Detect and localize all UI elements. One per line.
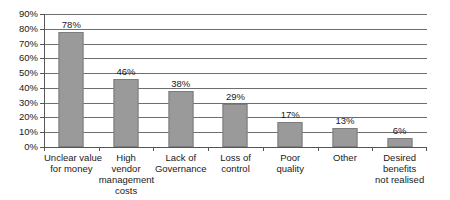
y-tick-mark [40,147,45,148]
bar-slot: 29% [208,14,263,147]
bar-slot: 38% [153,14,208,147]
y-tick-label: 40% [19,83,38,93]
x-category-label: Lack ofGovernance [153,152,208,174]
y-tick-mark [40,117,45,118]
x-category-label-line: costs [99,185,154,196]
bar-slot: 46% [99,14,154,147]
x-axis-labels: Unclear valuefor moneyHighvendormanageme… [44,152,427,200]
x-category-label-line: Other [318,152,373,163]
bar-value-label: 6% [393,126,407,136]
x-tick-mark [99,147,100,151]
bar-slot: 6% [372,14,427,147]
x-category-label: Desiredbenefitsnot realised [372,152,427,185]
bar[interactable] [168,91,193,147]
x-category-label-line: Loss of [208,152,263,163]
x-tick-mark [153,147,154,151]
y-tick-label: 50% [19,68,38,78]
y-tick-mark [40,103,45,104]
bar[interactable] [223,104,248,147]
bar-value-label: 17% [281,110,300,120]
x-category-label-line: control [208,163,263,174]
bar-value-label: 13% [335,116,354,126]
x-category-label-line: management [99,174,154,185]
y-tick-mark [40,58,45,59]
bar-value-label: 29% [226,92,245,102]
y-tick-label: 30% [19,98,38,108]
y-tick-label: 0% [24,142,38,152]
bar[interactable] [114,79,139,147]
y-tick-mark [40,88,45,89]
x-category-label: Unclear valuefor money [44,152,99,174]
bar[interactable] [387,138,412,147]
bar-value-label: 46% [117,67,136,77]
bar-value-label: 78% [62,20,81,30]
bar-slot: 13% [318,14,373,147]
bar-chart: 0%10%20%30%40%50%60%70%80%90% 78%46%38%2… [0,0,450,200]
x-category-label: Other [318,152,373,163]
y-tick-mark [40,73,45,74]
y-tick-label: 20% [19,112,38,122]
bar[interactable] [278,122,303,147]
x-tick-mark [426,147,427,151]
bars-layer: 78%46%38%29%17%13%6% [44,14,427,147]
x-category-label-line: Lack of [153,152,208,163]
bar[interactable] [59,32,84,147]
x-tick-mark [208,147,209,151]
y-tick-label: 70% [19,39,38,49]
bar-slot: 17% [263,14,318,147]
x-category-label: Poorquality [263,152,318,174]
bar-slot: 78% [44,14,99,147]
y-tick-mark [40,132,45,133]
y-tick-label: 10% [19,127,38,137]
y-tick-label: 60% [19,53,38,63]
x-tick-mark [372,147,373,151]
x-category-label-line: for money [44,163,99,174]
bar-value-label: 38% [171,79,190,89]
x-category-label-line: quality [263,163,318,174]
y-tick-mark [40,14,45,15]
x-category-label: Highvendormanagementcosts [99,152,154,196]
x-tick-mark [263,147,264,151]
x-tick-mark [318,147,319,151]
x-category-label-line: Governance [153,163,208,174]
x-category-label-line: benefits [372,163,427,174]
y-tick-mark [40,29,45,30]
y-tick-label: 90% [19,9,38,19]
x-category-label: Loss ofcontrol [208,152,263,174]
x-category-label-line: Unclear value [44,152,99,163]
x-category-label-line: Poor [263,152,318,163]
y-tick-mark [40,44,45,45]
x-category-label-line: Desired [372,152,427,163]
bar[interactable] [332,128,357,147]
y-axis: 0%10%20%30%40%50%60%70%80%90% [0,0,41,200]
x-category-label-line: not realised [372,174,427,185]
x-category-label-line: vendor [99,163,154,174]
y-tick-label: 80% [19,24,38,34]
x-category-label-line: High [99,152,154,163]
